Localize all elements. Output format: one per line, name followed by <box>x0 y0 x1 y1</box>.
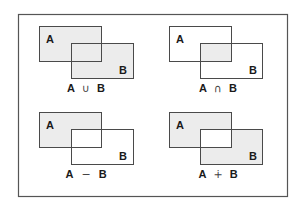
set-b-label: B <box>249 150 257 162</box>
set-b-label: B <box>119 150 127 162</box>
set-b-label: B <box>119 64 127 76</box>
dot-plus-operator-icon: ∔ <box>213 168 222 181</box>
set-operations-diagram: A B A ∪ B A B A ∩ B A B A − B <box>0 0 303 205</box>
intersection-operator-icon: ∩ <box>214 82 222 95</box>
caption-right: B <box>230 168 238 180</box>
panel-difference: A B A − B <box>40 113 134 182</box>
set-b-label: B <box>249 64 257 76</box>
set-a-label: A <box>176 119 184 131</box>
caption-left: A <box>198 168 206 180</box>
panel-caption: A ∔ B <box>198 168 237 181</box>
panel-union: A B A ∪ B <box>40 27 134 96</box>
caption-right: B <box>99 168 107 180</box>
set-a-label: A <box>46 33 54 45</box>
caption-left: A <box>199 82 207 94</box>
panel-caption: A ∩ B <box>199 82 237 95</box>
caption-right: B <box>97 82 105 94</box>
panel-caption: A ∪ B <box>67 82 105 95</box>
set-a-label: A <box>176 33 184 45</box>
caption-left: A <box>65 168 73 180</box>
panel-intersection: A B A ∩ B <box>170 27 263 96</box>
overlap-fill <box>201 44 232 62</box>
panel-caption: A − B <box>65 168 106 181</box>
caption-left: A <box>67 82 75 94</box>
caption-right: B <box>229 82 237 94</box>
panel-symmetric-difference: A B A ∔ B <box>170 113 263 182</box>
minus-operator-icon: − <box>81 168 90 181</box>
union-operator-icon: ∪ <box>82 82 90 95</box>
set-a-label: A <box>46 119 54 131</box>
